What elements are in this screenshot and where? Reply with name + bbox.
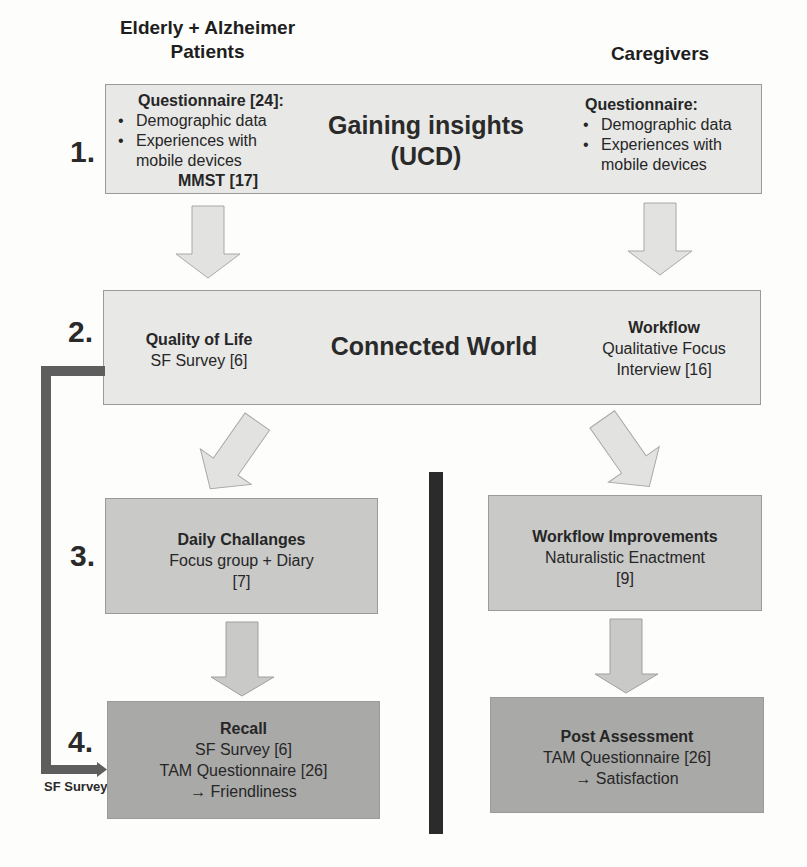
step-4-right-line: TAM Questionnaire [26] — [491, 747, 763, 768]
step-1-left-footer: MMST [17] — [116, 171, 316, 191]
step-1-title-line-2: (UCD) — [306, 141, 546, 172]
step-1-right-heading-text: Questionnaire: — [581, 95, 761, 115]
step-3-left-heading: Daily Challanges — [106, 529, 377, 550]
bullet-item: Experiences with mobile devices — [136, 131, 316, 171]
left-column-header: Elderly + Alzheimer Patients — [115, 16, 300, 64]
step-3-right-heading: Workflow Improvements — [489, 526, 761, 547]
step-4-left-line: → Friendliness — [108, 781, 379, 802]
step-2-left-content: Quality of Life SF Survey [6] — [124, 329, 274, 371]
bullet-item: Experiences with mobile devices — [601, 135, 761, 175]
step-1-right-content: 2. Questionnaire: Demographic data Exper… — [581, 95, 761, 175]
step-1-left-heading: Questionnaire [24]: — [116, 91, 316, 111]
step-3-left-box: Daily Challanges Focus group + Diary [7] — [105, 498, 378, 614]
left-header-line-2: Patients — [115, 40, 300, 64]
connector-line-bottom — [41, 765, 99, 774]
down-arrow-left-1-2 — [176, 206, 240, 280]
step-4-left-line: SF Survey [6] — [108, 739, 379, 760]
step-3-right-content: Workflow Improvements Naturalistic Enact… — [489, 526, 761, 589]
step-1-title-line-1: Gaining insights — [306, 110, 546, 141]
bullet-line: mobile devices — [601, 156, 707, 173]
bullet-line: Experiences with — [136, 132, 257, 149]
right-column-header: Caregivers — [600, 42, 720, 66]
bullet-item: Demographic data — [136, 111, 316, 131]
step-4-right-box: Post Assessment TAM Questionnaire [26] →… — [490, 697, 764, 813]
step-4-left-heading: Recall — [108, 718, 379, 739]
step-number-3: 3. — [70, 541, 95, 571]
step-4-right-line: → Satisfaction — [491, 768, 763, 789]
step-2-right-line: Interview [16] — [574, 359, 754, 380]
bullet-line: mobile devices — [136, 152, 242, 169]
step-3-right-line: [9] — [489, 568, 761, 589]
step-4-left-content: Recall SF Survey [6] TAM Questionnaire [… — [108, 718, 379, 802]
step-3-right-line: Naturalistic Enactment — [489, 547, 761, 568]
column-divider — [429, 472, 443, 834]
step-2-title: Connected World — [304, 331, 564, 362]
step-2-right-content: Workflow Qualitative Focus Interview [16… — [574, 317, 754, 380]
step-2-left-line: SF Survey [6] — [124, 350, 274, 371]
diagonal-arrow-left-2-3 — [200, 410, 300, 500]
step-3-left-content: Daily Challanges Focus group + Diary [7] — [106, 529, 377, 592]
step-4-left-box: Recall SF Survey [6] TAM Questionnaire [… — [107, 701, 380, 819]
step-2-right-line: Qualitative Focus — [574, 338, 754, 359]
step-3-left-line: Focus group + Diary — [106, 550, 377, 571]
step-4-left-line: TAM Questionnaire [26] — [108, 760, 379, 781]
down-arrow-right-1-2 — [628, 203, 692, 277]
step-2-box: Quality of Life SF Survey [6] Connected … — [103, 290, 761, 405]
step-1-box: Questionnaire [24]: Demographic data Exp… — [105, 84, 762, 194]
step-3-right-box: Workflow Improvements Naturalistic Enact… — [488, 495, 762, 611]
step-2-right-heading: Workflow — [574, 317, 754, 338]
connector-label: SF Survey — [44, 779, 108, 794]
step-2-left-heading: Quality of Life — [124, 329, 274, 350]
left-header-line-1: Elderly + Alzheimer — [115, 16, 300, 40]
bullet-line: Experiences with — [601, 136, 722, 153]
step-1-right-bullets: Demographic data Experiences with mobile… — [581, 115, 761, 175]
step-number-2: 2. — [68, 317, 93, 347]
connector-line-vertical — [41, 366, 51, 774]
step-4-right-content: Post Assessment TAM Questionnaire [26] →… — [491, 726, 763, 789]
down-arrow-left-3-4 — [211, 622, 275, 697]
step-1-left-content: Questionnaire [24]: Demographic data Exp… — [116, 91, 316, 191]
bullet-item: Demographic data — [601, 115, 761, 135]
step-number-1: 1. — [70, 137, 95, 167]
down-arrow-right-3-4 — [595, 619, 659, 694]
step-4-right-heading: Post Assessment — [491, 726, 763, 747]
step-1-title: Gaining insights (UCD) — [306, 110, 546, 172]
step-3-left-line: [7] — [106, 571, 377, 592]
diagonal-arrow-right-2-3 — [580, 408, 680, 498]
step-number-4: 4. — [68, 727, 93, 757]
step-1-left-bullets: Demographic data Experiences with mobile… — [116, 111, 316, 171]
